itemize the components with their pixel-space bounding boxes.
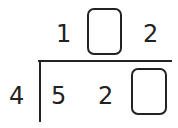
quotient-tens-blank-box[interactable]: [87, 8, 122, 55]
divisor-digit: 4: [9, 84, 24, 108]
quotient-hundreds-digit: 1: [56, 22, 71, 46]
dividend-tens-digit: 2: [98, 84, 113, 108]
dividend-ones-blank-box[interactable]: [131, 68, 167, 115]
division-bracket: [39, 60, 41, 122]
dividend-hundreds-digit: 5: [51, 84, 66, 108]
quotient-ones-digit: 2: [143, 22, 158, 46]
division-bar: [38, 60, 172, 62]
